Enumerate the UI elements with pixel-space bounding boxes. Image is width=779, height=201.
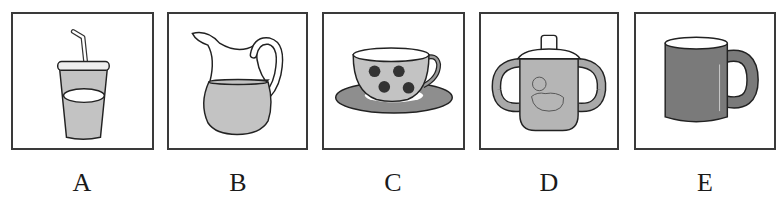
option-e-panel[interactable] bbox=[634, 12, 776, 150]
mug-icon bbox=[636, 14, 774, 148]
sippy-cup-icon bbox=[481, 14, 617, 148]
option-d-panel[interactable] bbox=[479, 12, 619, 150]
cup-with-straw-icon bbox=[13, 14, 152, 148]
option-b-label: B bbox=[218, 168, 258, 198]
pitcher-icon bbox=[169, 14, 306, 148]
option-c-label: C bbox=[373, 168, 413, 198]
option-c-panel[interactable] bbox=[322, 12, 465, 150]
teacup-icon bbox=[324, 14, 463, 148]
option-b-panel[interactable] bbox=[167, 12, 308, 150]
option-d-label: D bbox=[529, 168, 569, 198]
option-a-label: A bbox=[62, 168, 102, 198]
option-a-panel[interactable] bbox=[11, 12, 154, 150]
option-e-label: E bbox=[685, 168, 725, 198]
